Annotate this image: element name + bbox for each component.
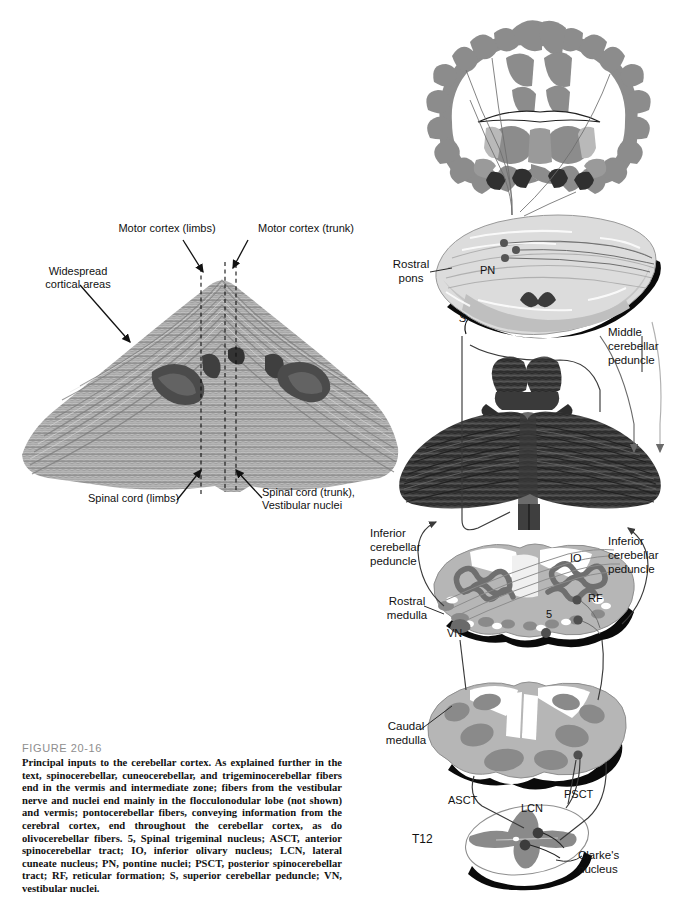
icp-right-line2: cerebellar [608,548,693,562]
label-inferior-cerebellar-peduncle-right: Inferior cerebellar peduncle [608,534,693,576]
tag-five-trigeminal: 5 [546,608,552,620]
icp-right-line3: peduncle [608,562,693,576]
cerebral-cortex-coronal-section [426,20,650,216]
label-rostral-medulla-line2: medulla [370,609,444,623]
label-spinal-cord-trunk-vestibular: Spinal cord (trunk), Vestibular nuclei [262,486,388,512]
tag-vn: VN [447,627,462,639]
label-spinal-trunk-line1: Spinal cord (trunk), [262,486,388,499]
tag-asct: ASCT [448,794,477,806]
figure-caption-block: FIGURE 20-16 Principal inputs to the cer… [22,742,342,896]
label-rostral-pons: Rostral pons [378,258,444,285]
mcp-line2: cerebellar [608,339,692,353]
rostral-medulla-section [434,544,634,648]
tag-s-superior-peduncle: S [459,312,466,324]
lcn-neuron [573,750,582,759]
label-middle-cerebellar-peduncle: Middle cerebellar peduncle [608,325,692,367]
icp-right-line1: Inferior [608,534,693,548]
icp-left-line3: peduncle [370,554,458,568]
ascending-neuron [520,840,531,851]
label-motor-cortex-limbs: Motor cortex (limbs) [102,222,232,235]
label-clarkes-nucleus: Clarke's nucleus [578,848,658,876]
tag-io: IO [570,552,582,564]
label-t12: T12 [412,833,433,846]
label-rostral-pons-line1: Rostral [378,258,444,272]
clarkes-line2: nucleus [578,862,658,876]
clarkes-nucleus-neuron [533,828,544,839]
tag-rf: RF [588,592,603,604]
tag-psct: PSCT [564,788,593,800]
label-rostral-medulla: Rostral medulla [370,595,444,622]
label-inferior-cerebellar-peduncle-left: Inferior cerebellar peduncle [370,526,458,568]
tag-lcn: LCN [521,802,543,814]
tag-pn: PN [480,264,495,276]
label-caudal-medulla-line2: medulla [370,734,442,748]
mcp-line1: Middle [608,325,692,339]
label-vestibular-nuclei-line2: Vestibular nuclei [262,499,388,512]
label-caudal-medulla-line1: Caudal [370,720,442,734]
icp-left-line2: cerebellar [370,540,458,554]
label-caudal-medulla: Caudal medulla [370,720,442,747]
label-rostral-pons-line2: pons [378,272,444,286]
cerebellum-dorsal-view [399,356,661,530]
label-spinal-cord-limbs: Spinal cord (limbs) [88,492,179,505]
label-rostral-medulla-line1: Rostral [370,595,444,609]
figure-caption-text: Principal inputs to the cerebellar corte… [22,757,342,896]
mcp-line3: peduncle [608,353,692,367]
figure-number: FIGURE 20-16 [22,742,342,754]
label-motor-cortex-trunk: Motor cortex (trunk) [240,222,372,235]
icp-left-line1: Inferior [370,526,458,540]
label-widespread-line2: cortical areas [26,278,130,291]
label-widespread-cortical-areas: Widespread cortical areas [26,265,130,291]
clarkes-line1: Clarke's [578,848,658,862]
caudal-medulla-section [428,682,626,790]
rostral-pons-section [436,215,661,338]
label-widespread-line1: Widespread [26,265,130,278]
